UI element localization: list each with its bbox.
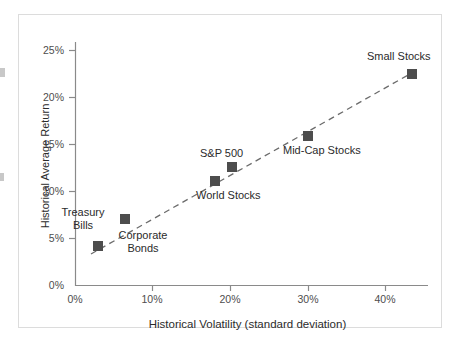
marker-treasury-bills bbox=[93, 241, 103, 251]
marker-sp500 bbox=[227, 162, 237, 172]
x-axis-title: Historical Volatility (standard deviatio… bbox=[75, 318, 420, 330]
point-label-small-stocks: Small Stocks bbox=[367, 50, 431, 63]
data-point-markers bbox=[93, 69, 417, 251]
xtick-label-0: 0% bbox=[57, 293, 93, 305]
edge-glyph-fragment-top bbox=[0, 68, 5, 77]
point-label-treasury-bills-line1: Treasury bbox=[52, 206, 114, 219]
xtick-label-20: 20% bbox=[212, 293, 248, 305]
marker-midcap-stocks bbox=[303, 131, 313, 141]
y-axis-title: Historical Average Return bbox=[39, 61, 51, 271]
ytick-label-0: 0% bbox=[34, 279, 64, 291]
point-label-world-stocks: World Stocks bbox=[196, 189, 261, 202]
xtick-label-40: 40% bbox=[367, 293, 403, 305]
point-label-treasury-bills: Treasury Bills bbox=[52, 206, 114, 232]
marker-small-stocks bbox=[407, 69, 417, 79]
point-label-corporate-bonds: Corporate Bonds bbox=[110, 229, 176, 255]
point-label-corporate-bonds-line2: Bonds bbox=[110, 242, 176, 255]
trendline bbox=[91, 70, 417, 254]
xtick-label-30: 30% bbox=[290, 293, 326, 305]
point-label-sp500: S&P 500 bbox=[200, 147, 243, 160]
point-label-midcap-stocks: Mid-Cap Stocks bbox=[283, 144, 361, 157]
xtick-label-10: 10% bbox=[134, 293, 170, 305]
marker-corporate-bonds bbox=[120, 214, 130, 224]
ytick-label-25: 25% bbox=[34, 44, 64, 56]
marker-world-stocks bbox=[210, 176, 220, 186]
point-label-treasury-bills-line2: Bills bbox=[52, 219, 114, 232]
point-label-corporate-bonds-line1: Corporate bbox=[110, 229, 176, 242]
edge-glyph-fragment-bottom bbox=[0, 173, 4, 181]
